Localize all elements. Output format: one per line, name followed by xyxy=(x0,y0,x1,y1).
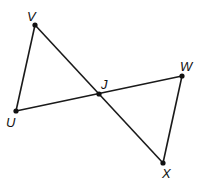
segment-WX xyxy=(163,76,182,163)
label-X: X xyxy=(161,166,172,180)
point-W xyxy=(179,73,184,78)
label-J: J xyxy=(100,77,108,92)
label-U: U xyxy=(6,115,16,130)
point-J xyxy=(96,91,101,96)
label-V: V xyxy=(27,9,37,24)
label-W: W xyxy=(180,59,194,74)
diagram-svg: V U J W X xyxy=(0,0,209,180)
point-U xyxy=(13,108,18,113)
point-X xyxy=(160,160,165,165)
segment-VU xyxy=(16,25,35,111)
geometry-diagram: V U J W X xyxy=(0,0,209,180)
